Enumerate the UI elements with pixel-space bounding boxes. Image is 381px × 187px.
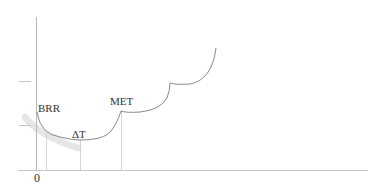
metabolic-curve: [37, 48, 216, 140]
shadow-arc: [25, 117, 78, 148]
origin-label: 0: [34, 172, 40, 184]
diagram-canvas: [0, 0, 381, 187]
met-label: MET: [110, 96, 133, 107]
brr-label: BRR: [38, 103, 60, 114]
delta-t-label: ΔT: [72, 129, 86, 140]
